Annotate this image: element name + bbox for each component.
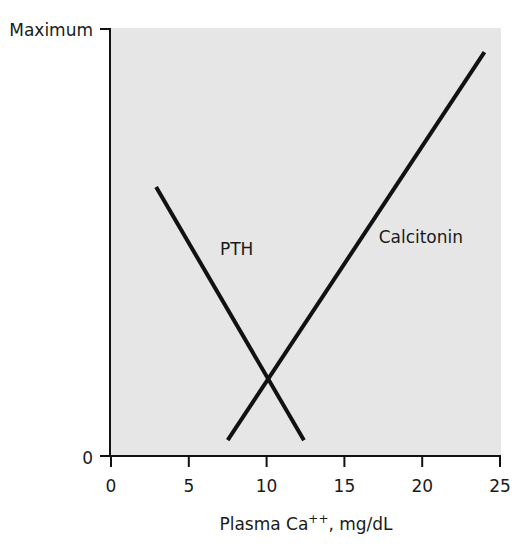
x-tick-label: 25 (489, 476, 511, 496)
calcitonin-label: Calcitonin (379, 227, 463, 247)
x-tick-label: 10 (256, 476, 278, 496)
x-tick-label: 5 (183, 476, 194, 496)
x-ticks: 0510152025 (106, 456, 511, 496)
y-tick-label-zero: 0 (82, 448, 93, 468)
calcium-hormone-chart: Maximum 0 0510152025 Plasma Ca++, mg/dL … (0, 0, 529, 550)
y-tick-label-maximum: Maximum (9, 20, 93, 40)
x-tick-label: 0 (106, 476, 117, 496)
x-axis-label: Plasma Ca++, mg/dL (219, 512, 393, 534)
x-tick-label: 15 (334, 476, 356, 496)
pth-label: PTH (220, 239, 253, 259)
y-axis: Maximum 0 (9, 20, 111, 468)
x-axis: 0510152025 Plasma Ca++, mg/dL (106, 456, 511, 534)
x-tick-label: 20 (411, 476, 433, 496)
